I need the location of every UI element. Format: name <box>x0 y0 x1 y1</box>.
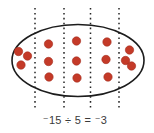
counter-dot <box>127 62 135 70</box>
division-model-figure <box>0 0 154 112</box>
counter-dot <box>104 73 112 81</box>
counter-dot <box>102 55 110 63</box>
counter-dot <box>125 46 133 54</box>
counter-dot <box>44 40 52 48</box>
counter-dot <box>73 74 81 82</box>
counter-dot <box>103 38 111 46</box>
counter-dot <box>23 52 31 60</box>
division-model-diagram: ⁻15 ÷ 5 = ⁻3 <box>0 0 154 133</box>
counter-dot <box>14 47 22 55</box>
counter-dot <box>44 57 52 65</box>
counter-dot <box>72 57 80 65</box>
counter-dot <box>72 37 80 45</box>
equation-caption: ⁻15 ÷ 5 = ⁻3 <box>0 112 150 128</box>
counter-dot <box>45 73 53 81</box>
counter-dot <box>17 61 25 69</box>
